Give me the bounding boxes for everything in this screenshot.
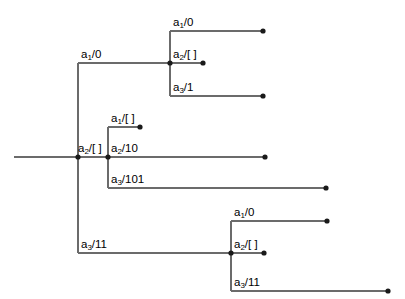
label-bottom-child-3: a3/11 — [234, 277, 260, 289]
tree-diagram: a1/0 a1/0 a2/[ ] a3/1 a2/[ ] a1/[ ] a2/1… — [0, 0, 405, 299]
label-bottom-child-1: a1/0 — [234, 207, 254, 219]
leaf-bottom-2 — [261, 250, 266, 255]
label-bottom-branch: a3/11 — [81, 239, 107, 251]
leaf-top-2 — [200, 60, 205, 65]
tree-edges — [0, 0, 405, 299]
node-middle-internal — [105, 154, 110, 159]
tree-nodes — [75, 28, 390, 293]
label-middle-child-2: a2/10 — [111, 143, 138, 155]
label-middle-child-3: a3/101 — [111, 174, 144, 186]
node-top-internal — [167, 60, 172, 65]
leaf-middle-2 — [262, 154, 267, 159]
leaf-bottom-1 — [324, 218, 329, 223]
leaf-middle-1 — [137, 124, 142, 129]
label-top-branch: a1/0 — [81, 49, 101, 61]
node-bottom-internal — [228, 250, 233, 255]
node-root — [75, 154, 80, 159]
leaf-middle-3 — [323, 185, 328, 190]
leaf-top-1 — [260, 28, 265, 33]
label-top-child-2: a2/[ ] — [173, 49, 197, 61]
label-top-child-1: a1/0 — [173, 17, 193, 29]
leaf-bottom-3 — [385, 288, 390, 293]
label-bottom-child-2: a2/[ ] — [234, 239, 258, 251]
label-top-child-3: a3/1 — [173, 82, 193, 94]
label-middle-branch: a2/[ ] — [78, 143, 102, 155]
leaf-top-3 — [260, 93, 265, 98]
label-middle-child-1: a1/[ ] — [111, 113, 135, 125]
